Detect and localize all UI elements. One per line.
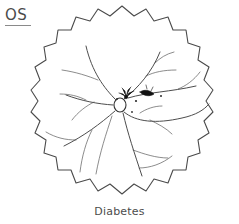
microaneurysm-dot [131,111,133,113]
vessel-nasal [66,95,113,105]
vessel-inferonasal [64,111,115,146]
hemorrhage-blot-superotemporal [140,85,154,96]
vessel-macular-arc [124,104,209,121]
vessel-superonasal [86,46,116,100]
vessel-inferotemporal [123,113,142,176]
vessel-macular-branch-2 [140,106,162,113]
vessel-nasal-branch-1 [72,102,94,120]
vessel-superonasal-branch [62,70,98,80]
fundus-border [31,6,213,194]
fundus-diagram [0,0,239,224]
vessel-inferotemporal-branch-1 [133,150,168,158]
microaneurysm-dot [160,95,162,97]
vessel-temporal-upper-branch [178,72,200,89]
vessel-inferonasal-branch-2 [46,132,76,140]
microaneurysm-dot [135,100,137,102]
diagnosis-caption: Diabetes [0,205,239,218]
microaneurysm-dot [116,98,118,100]
vessel-macular-branch-1 [150,120,172,134]
vessel-temporal-upper [128,86,196,98]
